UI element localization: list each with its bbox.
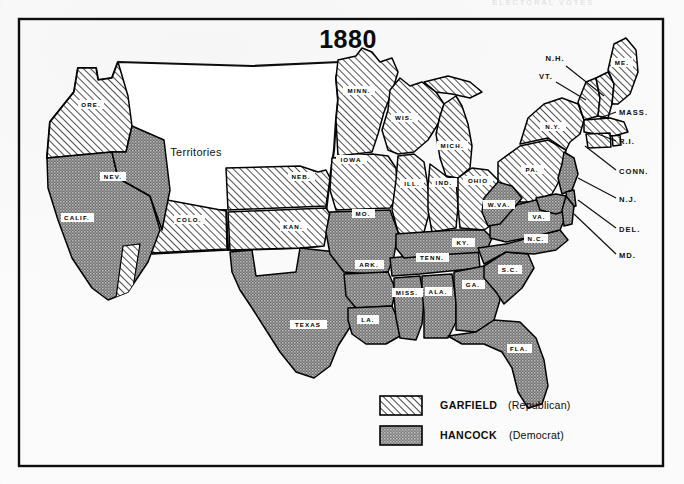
state-maine[interactable] bbox=[608, 38, 638, 104]
label-minn: MINN. bbox=[347, 87, 370, 94]
label-fla: FLA. bbox=[510, 345, 528, 352]
label-neb: NEB. bbox=[291, 173, 310, 180]
state-alabama[interactable] bbox=[422, 274, 456, 338]
state-connecticut[interactable] bbox=[586, 133, 611, 148]
label-ohio: OHIO bbox=[468, 177, 488, 184]
state-texas[interactable] bbox=[230, 248, 356, 378]
callout-label-md: MD. bbox=[619, 251, 636, 260]
label-me: ME. bbox=[615, 59, 629, 66]
callout-label-del: DEL. bbox=[619, 225, 640, 234]
label-ala: ALA. bbox=[429, 288, 448, 295]
legend-party-hancock: (Democrat) bbox=[509, 429, 564, 441]
callout-label-nj: N.J. bbox=[619, 195, 637, 204]
legend-candidate-hancock: HANCOCK bbox=[440, 429, 497, 441]
label-ill: ILL. bbox=[404, 180, 419, 187]
state-louisiana[interactable] bbox=[348, 306, 400, 344]
legend-swatch-hancock[interactable] bbox=[380, 426, 422, 445]
label-iowa: IOWA bbox=[341, 156, 362, 163]
callout-leader-vt bbox=[556, 82, 586, 100]
label-wis: WIS. bbox=[395, 114, 413, 121]
label-pa: PA. bbox=[525, 166, 538, 173]
callout-label-ri: R.I. bbox=[619, 137, 635, 146]
callout-leader-md bbox=[574, 214, 616, 254]
state-mississippi[interactable] bbox=[394, 276, 424, 340]
label-ark: ARK. bbox=[359, 261, 379, 268]
map-legend: GARFIELD (Republican) HANCOCK (Democrat) bbox=[380, 396, 570, 445]
territories-label: Territories bbox=[170, 146, 222, 158]
label-colo: COLO. bbox=[176, 216, 201, 223]
legend-candidate-garfield: GARFIELD bbox=[440, 399, 497, 411]
electoral-map-page: ELECTORAL VOTES bbox=[0, 0, 684, 484]
label-ore: ORE. bbox=[81, 101, 101, 108]
label-texas: TEXAS bbox=[295, 321, 321, 328]
callout-label-vt: VT. bbox=[539, 72, 553, 81]
label-la: LA. bbox=[361, 316, 374, 323]
callout-label-conn: CONN. bbox=[619, 167, 648, 176]
callout-label-nh: N.H. bbox=[545, 54, 564, 63]
label-ga: GA. bbox=[466, 281, 480, 288]
label-ny: N.Y. bbox=[545, 123, 561, 130]
callout-label-mass: MASS. bbox=[619, 108, 648, 117]
legend-swatch-garfield[interactable] bbox=[380, 396, 422, 415]
label-va: VA. bbox=[532, 213, 545, 220]
label-mo: MO. bbox=[356, 210, 371, 217]
map-figure: 1880 Territories bbox=[0, 0, 684, 484]
label-wva: W.VA. bbox=[488, 201, 511, 208]
callout-leader-nj bbox=[578, 178, 616, 198]
label-nc: N.C. bbox=[528, 235, 545, 242]
state-kansas[interactable] bbox=[228, 208, 330, 250]
state-florida[interactable] bbox=[448, 320, 548, 408]
legend-party-garfield: (Republican) bbox=[508, 399, 570, 411]
state-oregon[interactable] bbox=[47, 62, 132, 158]
label-sc: S.C. bbox=[502, 266, 518, 273]
label-ind: IND. bbox=[436, 179, 453, 186]
label-mich: MICH. bbox=[440, 142, 463, 149]
label-ky: KY. bbox=[457, 239, 470, 246]
label-kan: KAN. bbox=[283, 223, 303, 230]
state-arkansas[interactable] bbox=[344, 272, 396, 308]
state-illinois[interactable] bbox=[392, 154, 430, 240]
callout-leader-conn bbox=[585, 146, 616, 170]
label-calif: CALIF. bbox=[64, 214, 90, 221]
label-tenn: TENN. bbox=[420, 254, 444, 261]
label-miss: MISS. bbox=[396, 289, 418, 296]
label-nev: NEV. bbox=[104, 173, 122, 180]
page-title: 1880 bbox=[319, 25, 377, 53]
